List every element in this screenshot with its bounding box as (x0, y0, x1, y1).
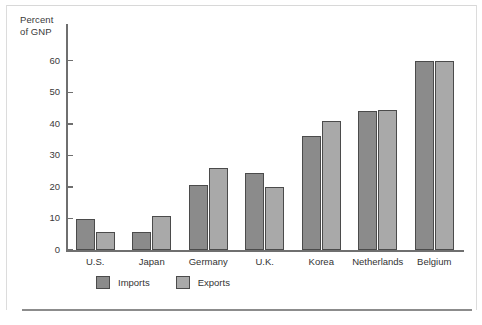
bar-imports-belgium (415, 61, 434, 250)
bar-imports-netherlands (358, 111, 377, 250)
x-axis-label-japan: Japan (124, 256, 181, 267)
bar-imports-uk (245, 173, 264, 250)
legend-item-imports: Imports (96, 276, 150, 289)
bar-imports-germany (189, 185, 208, 250)
bar-exports-netherlands (378, 110, 397, 250)
chart-legend: Imports Exports (96, 276, 230, 289)
bar-exports-belgium (435, 61, 454, 250)
legend-item-exports: Exports (176, 276, 230, 289)
chart-screenshot: Percent of GNP 0102030405060 U.S.JapanGe… (0, 0, 482, 325)
x-axis-label-us: U.S. (67, 256, 124, 267)
legend-label-exports: Exports (198, 277, 230, 288)
bar-groups (0, 0, 482, 325)
bar-imports-japan (132, 232, 151, 250)
bar-exports-germany (209, 168, 228, 250)
legend-label-imports: Imports (118, 277, 150, 288)
bar-exports-uk (265, 187, 284, 250)
exports-swatch-icon (176, 276, 190, 289)
imports-swatch-icon (96, 276, 110, 289)
x-axis-label-belgium: Belgium (406, 256, 463, 267)
x-axis-label-korea: Korea (293, 256, 350, 267)
x-axis-label-uk: U.K. (237, 256, 294, 267)
x-axis-label-germany: Germany (180, 256, 237, 267)
bar-exports-japan (152, 216, 171, 250)
bar-imports-us (76, 219, 95, 250)
x-axis-label-netherlands: Netherlands (350, 256, 407, 267)
bar-chart-plot-area: Percent of GNP 0102030405060 U.S.JapanGe… (0, 0, 482, 325)
bar-exports-korea (322, 121, 341, 250)
bar-imports-korea (302, 136, 321, 250)
bar-exports-us (96, 232, 115, 250)
